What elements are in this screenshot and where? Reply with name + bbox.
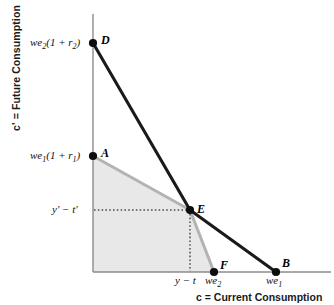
point-label-A: A: [101, 146, 109, 161]
x-tick-label-we2: we2: [205, 274, 221, 289]
point-marker-E: [186, 206, 194, 214]
x-tick-label-y-minus-t: y − t: [175, 274, 196, 286]
y-axis-title: c' = Future Consumption: [10, 0, 22, 138]
point-label-D: D: [101, 33, 110, 48]
point-label-F: F: [220, 258, 228, 273]
point-marker-A: [89, 152, 97, 160]
x-axis-title: c = Current Consumption: [196, 291, 322, 303]
point-marker-D: [89, 39, 97, 47]
x-tick-label-we1: we1: [266, 274, 282, 289]
point-label-E: E: [197, 202, 205, 217]
y-tick-label-yprime-minus-tprime: y' − t': [52, 203, 78, 215]
y-tick-label-we1-1plusr1: we1(1 + r1): [30, 149, 80, 164]
point-label-B: B: [282, 256, 290, 271]
y-tick-label-we2-1plusr2: we2(1 + r2): [30, 36, 80, 51]
